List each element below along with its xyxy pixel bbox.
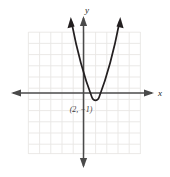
y-axis-label: y [84,5,89,15]
vertex-label: (2, −1) [70,105,93,114]
parabola-figure: y x (2, −1) [0,0,170,177]
coordinate-plane-plot: y x (2, −1) [0,0,170,177]
x-axis-label: x [157,88,162,98]
